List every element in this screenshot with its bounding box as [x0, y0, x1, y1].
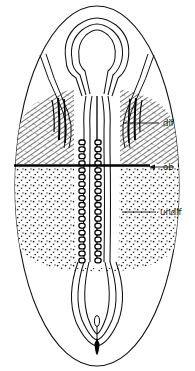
- segment-cell: [79, 209, 85, 214]
- label-dif: dif: [163, 118, 175, 128]
- segment-cell: [79, 175, 85, 180]
- segment-cell: [79, 147, 85, 152]
- segment-cell: [79, 196, 85, 201]
- segment-cell: [95, 203, 101, 208]
- segment-cell: [95, 168, 101, 173]
- segment-cell: [95, 209, 101, 214]
- segment-cell: [79, 189, 85, 194]
- stylet-bulb: [94, 316, 99, 327]
- segment-cell: [95, 182, 101, 187]
- segment-cell: [79, 251, 85, 256]
- segment-cell: [79, 182, 85, 187]
- segment-cell: [95, 189, 101, 194]
- segment-cell: [79, 223, 85, 228]
- segment-cell: [95, 237, 101, 242]
- segment-cell: [95, 244, 101, 249]
- segment-cell: [79, 216, 85, 221]
- segment-cell: [79, 230, 85, 235]
- segment-cell: [95, 175, 101, 180]
- segment-cell: [79, 203, 85, 208]
- label-undif: undif: [160, 207, 183, 217]
- segment-cell: [79, 244, 85, 249]
- segment-cell: [79, 140, 85, 145]
- segment-cell: [79, 168, 85, 173]
- segment-cell: [95, 196, 101, 201]
- segment-cell: [95, 251, 101, 256]
- segment-cell: [95, 216, 101, 221]
- figure-root: dif ob undif: [0, 0, 195, 371]
- segment-cell: [95, 258, 101, 263]
- segment-cell: [95, 230, 101, 235]
- segment-cell: [79, 237, 85, 242]
- segment-cell: [95, 223, 101, 228]
- label-ob: ob: [163, 162, 174, 172]
- embryo-diagram: dif ob undif: [0, 0, 195, 371]
- segment-cell: [79, 154, 85, 159]
- segment-cell: [95, 147, 101, 152]
- segment-cell: [95, 154, 101, 159]
- segment-cell: [95, 140, 101, 145]
